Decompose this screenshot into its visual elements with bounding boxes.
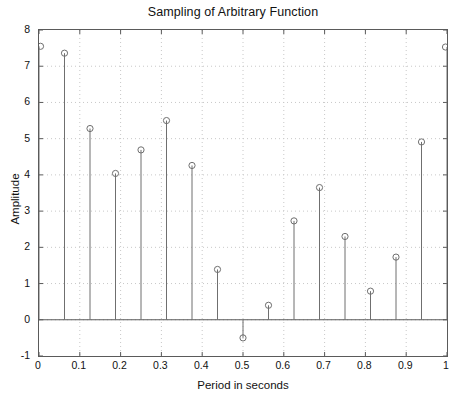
stem-point[interactable] (393, 254, 399, 320)
stem-plot-svg (39, 30, 447, 356)
data-marker[interactable] (39, 43, 44, 49)
plot-inner (39, 30, 447, 356)
x-tick-label: 0.7 (304, 360, 344, 370)
figure-canvas: Sampling of Arbitrary Function -10123456… (0, 0, 466, 404)
stem-point[interactable] (112, 170, 118, 319)
x-tick-label: 1 (426, 360, 466, 370)
y-tick-label: -1 (0, 350, 30, 360)
x-tick-label: 0.2 (100, 360, 140, 370)
x-tick-label: 0.8 (344, 360, 384, 370)
x-tick-label: 0.4 (181, 360, 221, 370)
stem-point[interactable] (442, 44, 447, 320)
stem-point[interactable] (316, 184, 322, 319)
stem-point[interactable] (342, 233, 348, 319)
x-tick-label: 0.6 (263, 360, 303, 370)
y-tick-label: 0 (0, 314, 30, 324)
x-tick-label: 0.9 (385, 360, 425, 370)
stem-point[interactable] (87, 125, 93, 319)
y-axis-label: Amplitude (9, 154, 21, 244)
stem-point[interactable] (265, 302, 271, 320)
chart-title: Sampling of Arbitrary Function (0, 5, 466, 19)
stem-point[interactable] (240, 320, 246, 341)
stem-point[interactable] (189, 162, 195, 319)
stem-point[interactable] (214, 266, 220, 319)
stem-point[interactable] (163, 117, 169, 319)
x-tick-label: 0 (18, 360, 58, 370)
stem-point[interactable] (61, 50, 67, 320)
y-tick-label: 7 (0, 60, 30, 70)
y-tick-label: 6 (0, 96, 30, 106)
stem-point[interactable] (39, 43, 44, 320)
x-tick-label: 0.5 (222, 360, 262, 370)
y-tick-label: 1 (0, 278, 30, 288)
x-tick-label: 0.3 (140, 360, 180, 370)
x-tick-label: 0.1 (59, 360, 99, 370)
stem-point[interactable] (291, 218, 297, 320)
plot-area[interactable] (38, 29, 448, 357)
stem-point[interactable] (418, 139, 424, 320)
stem-point[interactable] (367, 288, 373, 320)
stem-point[interactable] (138, 147, 144, 320)
x-axis-label: Period in seconds (38, 379, 448, 391)
y-tick-label: 5 (0, 133, 30, 143)
y-tick-label: 8 (0, 24, 30, 34)
data-marker[interactable] (442, 44, 447, 50)
